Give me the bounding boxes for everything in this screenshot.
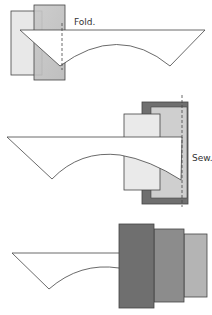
panel-result: [12, 224, 207, 308]
sewing-diagram: Fold. Sew.: [0, 0, 212, 315]
light-gray-fabric-rect: [184, 234, 207, 297]
sew-label: Sew.: [192, 153, 212, 163]
panel-sew: Sew.: [7, 95, 212, 207]
fold-label: Fold.: [74, 17, 95, 27]
fabric-strip: [12, 253, 119, 289]
dark-fabric-rect: [119, 224, 154, 308]
panel-fold: Fold.: [11, 5, 205, 80]
medium-dark-fabric-rect: [154, 229, 184, 302]
